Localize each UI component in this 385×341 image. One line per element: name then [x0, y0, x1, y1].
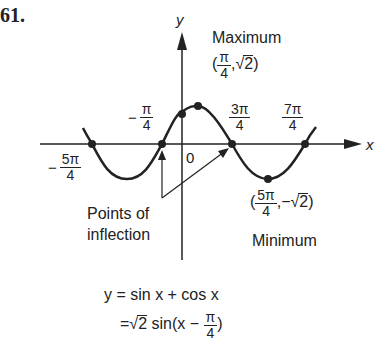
x-axis-arrow-icon — [344, 139, 362, 149]
tick-neg-5pi-4: −5π4 — [48, 152, 81, 182]
minimum-title: Minimum — [252, 233, 317, 249]
origin-label: 0 — [186, 150, 194, 165]
tick-7pi-4: 7π4 — [282, 102, 303, 132]
inflection-label-line1: Points of — [87, 206, 149, 222]
y-intercept-point — [178, 110, 186, 118]
zero-point-neg-5pi-4 — [88, 140, 96, 148]
inflection-label-line2: inflection — [87, 227, 150, 243]
equation-line2: =√2 sin(x − π4) — [120, 310, 223, 340]
inflection-point-neg-pi-4 — [158, 140, 166, 148]
maximum-title: Maximum — [212, 30, 281, 46]
zero-point-7pi-4 — [301, 140, 309, 148]
y-axis-label: y — [176, 12, 184, 27]
equation-line1: y = sin x + cos x — [104, 287, 219, 303]
maximum-point — [194, 102, 202, 110]
y-axis-arrow-icon — [177, 32, 187, 50]
arrow-head-icon — [218, 148, 229, 158]
maximum-coordinates: (π4,√2) — [212, 50, 258, 80]
minimum-point — [264, 175, 272, 183]
minimum-coordinates: (5π4,−√2) — [250, 188, 314, 218]
tick-3pi-4: 3π4 — [229, 102, 250, 132]
tick-neg-pi-4: −π4 — [128, 102, 153, 132]
x-axis-label: x — [366, 137, 374, 152]
inflection-point-3pi-4 — [228, 140, 236, 148]
